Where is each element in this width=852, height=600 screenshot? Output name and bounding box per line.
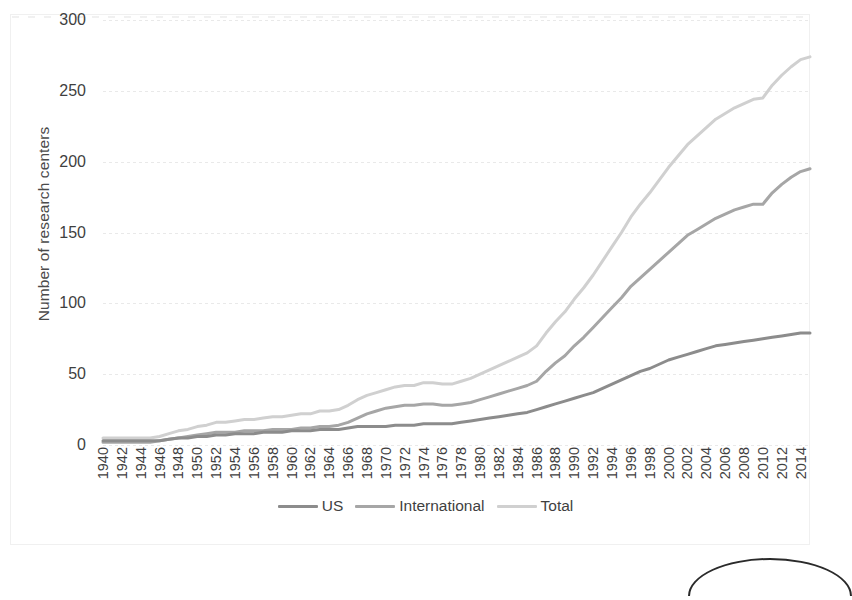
legend-label: Total xyxy=(541,497,574,515)
x-tick-label: 1982 xyxy=(491,447,507,479)
x-tick-label: 2002 xyxy=(679,447,695,479)
x-tick-label: 1952 xyxy=(208,447,224,479)
x-tick-label: 2000 xyxy=(661,447,677,479)
y-axis-ticks: 050100150200250300 xyxy=(30,0,86,581)
legend-swatch-icon xyxy=(497,505,537,508)
y-tick-label: 0 xyxy=(30,436,86,454)
y-tick-label: 250 xyxy=(30,82,86,100)
legend-swatch-icon xyxy=(278,505,318,508)
legend-swatch-icon xyxy=(355,505,395,508)
x-tick-label: 1956 xyxy=(246,447,262,479)
chart-legend: USInternationalTotal xyxy=(0,497,851,515)
series-line-total xyxy=(103,57,810,438)
x-tick-label: 1940 xyxy=(95,447,111,479)
x-tick-label: 2004 xyxy=(698,447,714,479)
series-lines xyxy=(103,20,810,445)
x-tick-label: 1980 xyxy=(472,447,488,479)
x-tick-label: 1970 xyxy=(378,447,394,479)
x-tick-label: 1944 xyxy=(133,447,149,479)
legend-label: International xyxy=(399,497,484,515)
x-tick-label: 1964 xyxy=(321,447,337,479)
plot-area xyxy=(103,20,810,445)
x-tick-label: 1968 xyxy=(359,447,375,479)
x-tick-label: 2008 xyxy=(736,447,752,479)
legend-item-international[interactable]: International xyxy=(355,497,484,515)
x-tick-label: 1946 xyxy=(152,447,168,479)
y-tick-label: 50 xyxy=(30,365,86,383)
scan-noise-line xyxy=(12,16,807,18)
x-tick-label: 2010 xyxy=(755,447,771,479)
x-tick-label: 1966 xyxy=(340,447,356,479)
x-tick-label: 1942 xyxy=(114,447,130,479)
x-tick-label: 1988 xyxy=(547,447,563,479)
x-tick-label: 1978 xyxy=(453,447,469,479)
x-tick-label: 1954 xyxy=(227,447,243,479)
x-tick-label: 1986 xyxy=(529,447,545,479)
y-tick-label: 200 xyxy=(30,153,86,171)
x-tick-label: 1998 xyxy=(642,447,658,479)
x-tick-label: 1958 xyxy=(265,447,281,479)
x-tick-label: 1990 xyxy=(566,447,582,479)
x-tick-label: 1962 xyxy=(302,447,318,479)
y-tick-label: 300 xyxy=(30,11,86,29)
x-tick-label: 1950 xyxy=(189,447,205,479)
x-tick-label: 1994 xyxy=(604,447,620,479)
x-tick-label: 1974 xyxy=(416,447,432,479)
x-axis-ticks: 1940194219441946194819501952195419561958… xyxy=(103,447,810,499)
x-tick-label: 1996 xyxy=(623,447,639,479)
page-scan-arc-artifact xyxy=(688,558,852,600)
series-line-international xyxy=(103,169,810,442)
legend-item-total[interactable]: Total xyxy=(497,497,574,515)
gridline xyxy=(103,445,810,446)
x-tick-label: 1960 xyxy=(284,447,300,479)
x-tick-label: 1972 xyxy=(397,447,413,479)
legend-label: US xyxy=(322,497,344,515)
legend-item-us[interactable]: US xyxy=(278,497,344,515)
x-tick-label: 1976 xyxy=(434,447,450,479)
x-tick-label: 2014 xyxy=(793,447,809,479)
x-tick-label: 2006 xyxy=(717,447,733,479)
x-tick-label: 2012 xyxy=(774,447,790,479)
y-tick-label: 150 xyxy=(30,224,86,242)
x-tick-label: 1948 xyxy=(170,447,186,479)
y-tick-label: 100 xyxy=(30,294,86,312)
x-tick-label: 1992 xyxy=(585,447,601,479)
x-tick-label: 1984 xyxy=(510,447,526,479)
